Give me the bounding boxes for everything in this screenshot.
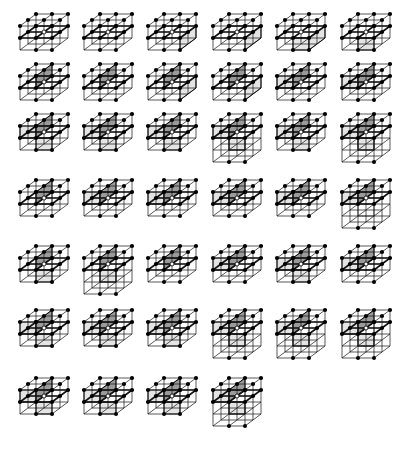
lattice-configuration [338, 244, 396, 288]
lattice-configuration [338, 308, 396, 364]
lattice-configuration [16, 12, 74, 56]
lattice-configuration [80, 12, 138, 56]
lattice-configuration [273, 244, 331, 288]
lattice-configuration [16, 244, 74, 288]
lattice-configuration [16, 62, 74, 106]
lattice-configuration [80, 112, 138, 156]
lattice-configuration [209, 376, 267, 432]
lattice-configuration [338, 112, 396, 168]
lattice-configuration [144, 12, 202, 56]
lattice-configuration [209, 244, 267, 288]
lattice-configuration [144, 178, 202, 222]
lattice-configuration [144, 376, 202, 420]
lattice-configuration [144, 62, 202, 106]
lattice-configuration [273, 62, 331, 106]
lattice-configuration [209, 112, 267, 168]
lattice-configuration [209, 178, 267, 222]
lattice-configuration [80, 178, 138, 222]
lattice-configuration [144, 308, 202, 352]
lattice-configuration [80, 376, 138, 420]
lattice-configuration [80, 62, 138, 106]
lattice-configuration [338, 62, 396, 106]
lattice-configuration [273, 12, 331, 56]
lattice-configuration [209, 12, 267, 56]
lattice-configuration [16, 178, 74, 222]
lattice-configuration [16, 112, 74, 156]
lattice-configuration [80, 308, 138, 352]
lattice-configuration [338, 12, 396, 56]
lattice-configuration [273, 308, 331, 364]
lattice-configuration [16, 376, 74, 420]
lattice-configuration [209, 62, 267, 106]
lattice-configuration [80, 244, 138, 300]
lattice-configuration [209, 308, 267, 364]
lattice-configuration [144, 112, 202, 156]
lattice-configuration [273, 178, 331, 222]
lattice-configuration [338, 178, 396, 234]
lattice-configuration [16, 308, 74, 352]
lattice-configuration [273, 112, 331, 156]
lattice-configuration [144, 244, 202, 288]
